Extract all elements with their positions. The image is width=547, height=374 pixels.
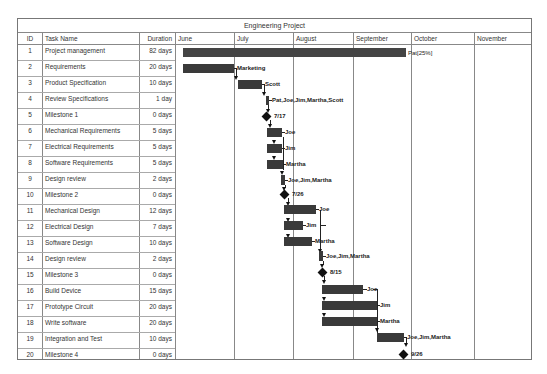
task-id: 10 xyxy=(18,189,42,205)
milestone-diamond[interactable] xyxy=(318,268,328,278)
bar-label: Jim xyxy=(306,221,316,229)
dependency-line xyxy=(283,137,284,170)
task-name: Project management xyxy=(42,45,139,61)
gantt-bar[interactable] xyxy=(284,221,303,230)
task-name: Review Specifications xyxy=(42,93,139,109)
column-header-id: ID xyxy=(18,33,42,44)
task-duration: 10 days xyxy=(139,333,175,349)
task-duration: 2 days xyxy=(139,253,175,269)
task-id: 1 xyxy=(18,45,42,61)
task-id: 18 xyxy=(18,317,42,333)
gantt-bar[interactable] xyxy=(183,48,406,57)
task-duration: 20 days xyxy=(139,61,175,77)
task-id: 4 xyxy=(18,93,42,109)
task-name: Integration and Test xyxy=(42,333,139,349)
month-august: August xyxy=(293,33,353,44)
task-id: 20 xyxy=(18,349,42,365)
divider xyxy=(474,33,475,359)
task-name: Prototype Circuit xyxy=(42,301,139,317)
task-id: 13 xyxy=(18,237,42,253)
milestone-diamond[interactable] xyxy=(399,350,409,360)
gantt-bar[interactable] xyxy=(284,205,316,214)
task-id: 5 xyxy=(18,109,42,125)
bar-label: Joe,Jim,Martha xyxy=(326,252,370,260)
arrow-icon xyxy=(375,328,379,332)
divider xyxy=(411,33,412,359)
task-name: Design review xyxy=(42,173,139,189)
gantt-bar[interactable] xyxy=(267,128,282,137)
divider xyxy=(234,33,235,359)
column-header-duration: Duration xyxy=(139,33,175,44)
task-duration: 7 days xyxy=(139,221,175,237)
bar-label: Martha xyxy=(315,237,335,245)
task-id: 12 xyxy=(18,221,42,237)
bar-label: Pat[25%] xyxy=(408,49,432,57)
task-name: Mechanical Requirements xyxy=(42,125,139,141)
month-october: October xyxy=(411,33,474,44)
milestone-date: 8/15 xyxy=(330,268,342,276)
task-name: Requirements xyxy=(42,61,139,77)
task-name: Build Device xyxy=(42,285,139,301)
gantt-chart: Engineering Project ID Task Name Duratio… xyxy=(17,18,532,360)
gantt-bar[interactable] xyxy=(322,285,363,294)
gantt-bar[interactable] xyxy=(183,64,234,73)
gantt-bar[interactable] xyxy=(284,237,312,246)
divider xyxy=(175,33,176,359)
task-id: 16 xyxy=(18,285,42,301)
task-duration: 5 days xyxy=(139,157,175,173)
bar-label: Joe xyxy=(285,128,295,136)
task-name: Electrical Design xyxy=(42,221,139,237)
task-name: Design review xyxy=(42,253,139,269)
task-duration: 10 days xyxy=(139,237,175,253)
bar-label: Marketing xyxy=(237,64,265,72)
task-name: Write software xyxy=(42,317,139,333)
gantt-bar[interactable] xyxy=(267,160,283,169)
gantt-bar[interactable] xyxy=(267,144,282,153)
task-name: Milestone 2 xyxy=(42,189,139,205)
task-id: 7 xyxy=(18,141,42,157)
task-duration: 5 days xyxy=(139,141,175,157)
task-name: Milestone 1 xyxy=(42,109,139,125)
task-name: Milestone 4 xyxy=(42,349,139,365)
task-id: 17 xyxy=(18,301,42,317)
task-id: 19 xyxy=(18,333,42,349)
milestone-date: 7/17 xyxy=(274,112,286,120)
task-id: 3 xyxy=(18,77,42,93)
task-duration: 2 days xyxy=(139,173,175,189)
arrow-icon xyxy=(322,280,326,284)
gantt-bar[interactable] xyxy=(377,333,404,342)
divider xyxy=(353,33,354,359)
task-name: Mechanical Design xyxy=(42,205,139,221)
task-duration: 1 day xyxy=(139,93,175,109)
task-id: 9 xyxy=(18,173,42,189)
task-id: 6 xyxy=(18,125,42,141)
task-name: Electrical Requirements xyxy=(42,141,139,157)
column-header-task-name: Task Name xyxy=(42,33,139,44)
task-name: Software Requirements xyxy=(42,157,139,173)
milestone-date: 7/26 xyxy=(292,190,304,198)
bar-label: Martha xyxy=(380,317,400,325)
task-id: 2 xyxy=(18,61,42,77)
task-name: Milestone 3 xyxy=(42,269,139,285)
chart-title: Engineering Project xyxy=(18,19,531,33)
task-duration: 82 days xyxy=(139,45,175,61)
task-id: 14 xyxy=(18,253,42,269)
bar-label: Joe,Jim,Martha xyxy=(407,333,451,341)
task-duration: 0 days xyxy=(139,349,175,365)
gantt-bar[interactable] xyxy=(322,301,377,310)
task-duration: 10 days xyxy=(139,77,175,93)
task-duration: 20 days xyxy=(139,317,175,333)
gantt-bar[interactable] xyxy=(322,317,377,326)
task-name: Product Specification xyxy=(42,77,139,93)
month-november: November xyxy=(474,33,533,44)
task-id: 15 xyxy=(18,269,42,285)
month-july: July xyxy=(234,33,293,44)
gantt-bar[interactable] xyxy=(238,80,262,89)
month-june: June xyxy=(175,33,234,44)
month-september: September xyxy=(353,33,411,44)
task-duration: 0 days xyxy=(139,269,175,285)
task-duration: 12 days xyxy=(139,205,175,221)
task-duration: 0 days xyxy=(139,189,175,205)
task-name: Software Design xyxy=(42,237,139,253)
bar-label: Martha xyxy=(286,160,306,168)
